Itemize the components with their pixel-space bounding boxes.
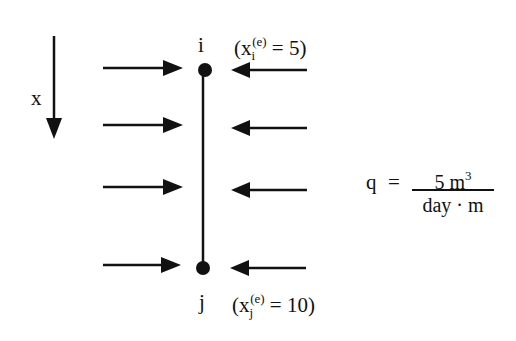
node-i-label: i: [198, 35, 204, 56]
load-denominator: day · m: [412, 194, 494, 216]
node-j-dot: [196, 261, 210, 275]
load-fraction: 5 m3 day · m: [412, 165, 494, 216]
node-i-dot: [198, 63, 212, 77]
left-load-arrows: [103, 60, 183, 273]
arrow-right-icon: [103, 257, 181, 273]
right-load-arrows: [230, 62, 307, 276]
arrow-right-icon: [103, 60, 183, 76]
equals-sign: =: [388, 172, 400, 193]
arrow-left-icon: [230, 260, 306, 276]
node-i-coordinate: (xi(e) = 5): [234, 35, 306, 62]
arrow-left-icon: [231, 182, 307, 198]
arrow-left-icon: [231, 120, 307, 136]
arrow-left-icon: [231, 62, 307, 78]
load-numerator: 5 m3: [412, 165, 494, 187]
x-axis-arrow-icon: [46, 36, 62, 139]
x-axis-label: x: [31, 88, 42, 109]
load-symbol: q: [366, 172, 377, 193]
arrow-right-icon: [103, 179, 183, 195]
node-j-coordinate: (xj(e) = 10): [232, 292, 315, 319]
node-j-label: j: [199, 292, 205, 313]
arrow-right-icon: [103, 117, 183, 133]
